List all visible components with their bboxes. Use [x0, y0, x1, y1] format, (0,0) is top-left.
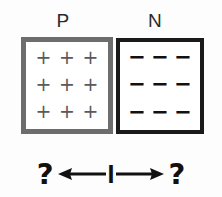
left-question-mark: ? [37, 160, 54, 189]
right-arrow-icon [116, 164, 166, 184]
charge-row: − − − [124, 99, 196, 126]
current-symbol-label: I [106, 162, 117, 187]
negative-charge-symbol: − [173, 103, 193, 122]
negative-charge-symbol: − [173, 48, 193, 67]
negative-charge-symbol: − [150, 75, 170, 94]
charge-row: + + + [30, 44, 104, 71]
positive-charge-symbol: + [57, 48, 77, 67]
right-question-mark: ? [168, 160, 185, 189]
p-region-label: P [40, 10, 86, 32]
current-annotation: ? I ? [0, 154, 222, 194]
positive-charge-symbol: + [34, 102, 54, 121]
negative-charge-symbol: − [127, 75, 147, 94]
p-region-box: + + + + + + + + + [21, 37, 113, 134]
positive-charge-symbol: + [81, 102, 101, 121]
negative-charge-symbol: − [150, 48, 170, 67]
n-region-label: N [132, 10, 178, 32]
positive-charge-symbol: + [57, 102, 77, 121]
positive-charge-symbol: + [34, 75, 54, 94]
pn-junction-diagram: P N + + + + + + + + + − − [0, 0, 222, 197]
positive-charge-symbol: + [57, 75, 77, 94]
negative-charge-symbol: − [173, 75, 193, 94]
charge-row: + + + [30, 98, 104, 125]
negative-charge-symbol: − [127, 48, 147, 67]
left-arrow-icon [56, 164, 106, 184]
p-charge-grid: + + + + + + + + + [26, 42, 108, 129]
charge-row: − − − [124, 44, 196, 71]
n-charge-grid: − − − − − − − − − [120, 42, 200, 130]
positive-charge-symbol: + [81, 48, 101, 67]
positive-charge-symbol: + [34, 48, 54, 67]
negative-charge-symbol: − [127, 103, 147, 122]
charge-row: + + + [30, 71, 104, 98]
negative-charge-symbol: − [150, 103, 170, 122]
charge-row: − − − [124, 71, 196, 98]
n-region-box: − − − − − − − − − [116, 38, 204, 134]
positive-charge-symbol: + [81, 75, 101, 94]
